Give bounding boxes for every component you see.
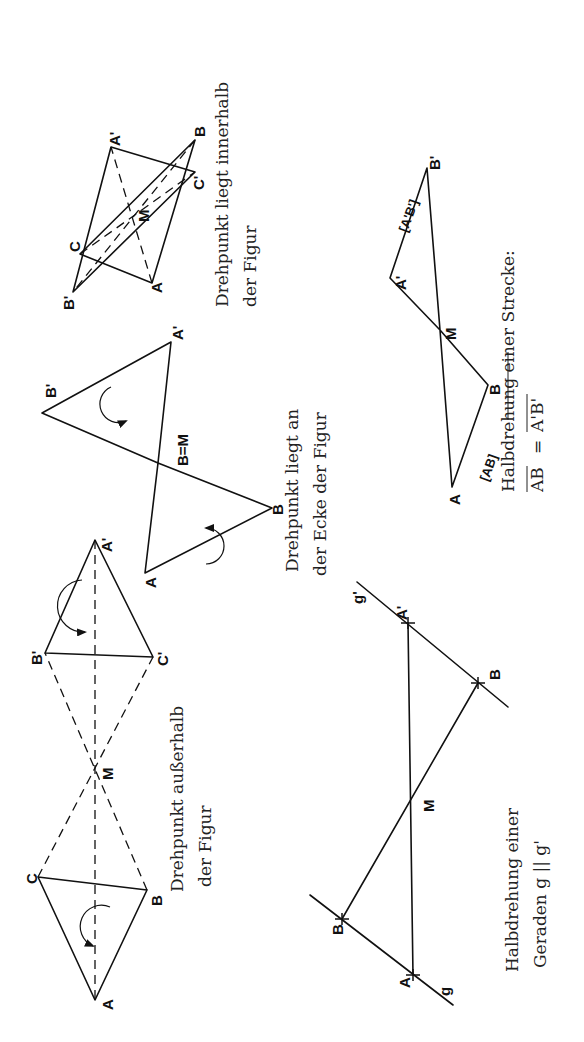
label-A: A	[99, 999, 116, 1010]
caption-inside-line2: der Figur	[240, 224, 260, 307]
caption-vertex-line2: der Ecke der Figur	[310, 411, 330, 576]
label-C: C	[66, 241, 83, 252]
label-g-prime: g'	[349, 591, 366, 604]
label-g: g	[436, 987, 453, 996]
label-C-prime: C'	[154, 652, 171, 666]
caption-line-line2: Geraden g || g'	[530, 840, 550, 968]
label-B-prime: B'	[42, 384, 59, 398]
label-segment-ApBp: [A'B']	[396, 197, 422, 234]
label-A-prime: A'	[392, 276, 409, 290]
triangle-ABM	[145, 463, 272, 573]
caption-inside-line1: Drehpunkt liegt innerhalb	[212, 82, 232, 307]
label-A-prime: A'	[98, 538, 115, 552]
label-C: C	[23, 873, 40, 884]
figure-inside: A B C A' B' C' M Drehpunkt liegt innerha…	[60, 82, 260, 310]
label-B: B	[191, 126, 208, 137]
caption-outside-line2: der Figur	[195, 804, 215, 887]
caption-AB: AB	[527, 467, 547, 493]
line-g	[310, 895, 453, 1005]
rotation-arrow-icon	[80, 905, 110, 946]
label-A-prime: A'	[106, 132, 123, 146]
label-A-prime: A'	[393, 606, 410, 620]
label-M: M	[442, 328, 459, 341]
label-A: A	[446, 494, 463, 505]
label-B: B	[486, 669, 503, 680]
figure-vertex: A B A' B' B=M Drehpunkt liegt an der Eck…	[42, 326, 330, 588]
caption-outside-line1: Drehpunkt außerhalb	[167, 706, 187, 892]
label-M: M	[420, 800, 437, 813]
label-B-prime: B	[329, 924, 346, 935]
label-M: M	[135, 210, 152, 223]
rotation-arrow-icon	[100, 387, 126, 423]
caption-line-line1: Halbdrehung einer	[502, 807, 522, 972]
caption-ApBp: A'B'	[527, 398, 547, 433]
triangle-ABC	[38, 877, 147, 1000]
label-B-prime: B'	[28, 651, 45, 665]
line-g-prime	[357, 582, 508, 707]
dashed-BBp	[45, 653, 147, 890]
label-B-prime: B'	[60, 296, 77, 310]
caption-vertex-line1: Drehpunkt liegt an	[282, 409, 302, 572]
figure-segment: A B A' B' M [AB] [A'B'] Halbdrehung eine…	[390, 156, 547, 505]
figure-outside: A B C A' B' C' M Drehpunkt außerhalb der…	[23, 538, 215, 1010]
figure-line: A B A' B M g g' Halbdrehung einer Gerade…	[310, 582, 550, 1005]
diagram-canvas: A B C A' B' C' M Drehpunkt liegt innerha…	[0, 0, 584, 1042]
label-segment-AB: [AB]	[477, 452, 500, 483]
label-B-prime: B'	[426, 156, 443, 170]
rotation-arrow-icon	[57, 580, 85, 632]
triangle-ApBpM	[42, 342, 171, 463]
label-C-prime: C'	[190, 176, 207, 190]
label-A: A	[148, 282, 165, 293]
caption-segment-line2: AB = A'B'	[527, 394, 547, 493]
label-B-equals-M: B=M	[174, 434, 191, 466]
label-M: M	[99, 768, 116, 781]
label-A: A	[396, 977, 413, 988]
triangle-ApBpCp	[45, 540, 153, 657]
label-A: A	[142, 577, 159, 588]
label-B: B	[148, 895, 165, 906]
triangle-ApBpCp	[73, 147, 195, 292]
label-A-prime: A'	[169, 326, 186, 340]
caption-eq: =	[527, 440, 547, 454]
